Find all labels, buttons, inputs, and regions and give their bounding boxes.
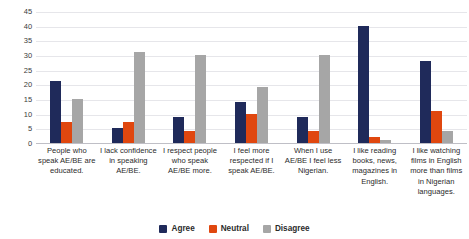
bar-group <box>405 12 467 143</box>
bar-group <box>282 12 344 143</box>
bar-group <box>221 12 283 143</box>
legend-swatch-icon <box>159 225 167 233</box>
bar-agree[interactable] <box>173 117 184 143</box>
y-axis-tick-10: 10 <box>24 111 32 119</box>
category-label: When I use AE/BE I feel less Nigerian. <box>282 146 344 197</box>
bar-disagree[interactable] <box>380 140 391 143</box>
legend-swatch-icon <box>263 225 271 233</box>
bar-neutral[interactable] <box>369 137 380 143</box>
bar-neutral[interactable] <box>184 131 195 143</box>
category-label: I like watching films in English more th… <box>405 146 467 197</box>
bar-agree[interactable] <box>235 102 246 143</box>
plot-area: 051015202530354045 <box>0 12 469 144</box>
bar-group <box>98 12 160 143</box>
legend-item-neutral[interactable]: Neutral <box>209 225 249 233</box>
y-axis-tick-30: 30 <box>24 52 32 60</box>
chart-legend: AgreeNeutralDisagree <box>0 225 469 233</box>
category-label: People who speak AE/BE are educated. <box>36 146 98 197</box>
bar-disagree[interactable] <box>72 99 83 143</box>
legend-item-agree[interactable]: Agree <box>159 225 194 233</box>
legend-swatch-icon <box>209 225 217 233</box>
bar-neutral[interactable] <box>308 131 319 143</box>
category-label: I respect people who speak AE/BE more. <box>159 146 221 197</box>
axis-baseline <box>36 143 467 144</box>
bar-agree[interactable] <box>297 117 308 143</box>
y-axis-tick-0: 0 <box>28 140 32 148</box>
bar-neutral[interactable] <box>431 111 442 143</box>
bar-neutral[interactable] <box>123 122 134 143</box>
y-axis-tick-15: 15 <box>24 96 32 104</box>
legend-label: Neutral <box>221 225 249 233</box>
y-axis-tick-40: 40 <box>24 23 32 31</box>
bar-chart: 051015202530354045 People who speak AE/B… <box>0 0 469 239</box>
bar-agree[interactable] <box>420 61 431 143</box>
bar-disagree[interactable] <box>442 131 453 143</box>
y-axis-tick-25: 25 <box>24 67 32 75</box>
category-label: I lack confidence in speaking AE/BE. <box>98 146 160 197</box>
y-axis-tick-35: 35 <box>24 38 32 46</box>
bar-agree[interactable] <box>112 128 123 143</box>
bar-agree[interactable] <box>358 26 369 143</box>
bar-neutral[interactable] <box>246 114 257 143</box>
bar-disagree[interactable] <box>195 55 206 143</box>
bar-neutral[interactable] <box>61 122 72 143</box>
bar-disagree[interactable] <box>257 87 268 143</box>
bar-group <box>159 12 221 143</box>
legend-label: Agree <box>171 225 194 233</box>
grid-area <box>36 12 467 144</box>
y-axis-tick-20: 20 <box>24 82 32 90</box>
category-label: I feel more respected if I speak AE/BE. <box>221 146 283 197</box>
legend-label: Disagree <box>275 225 310 233</box>
bar-disagree[interactable] <box>134 52 145 143</box>
bar-agree[interactable] <box>50 81 61 143</box>
category-labels: People who speak AE/BE are educated.I la… <box>36 146 467 197</box>
bar-groups <box>36 12 467 143</box>
y-axis: 051015202530354045 <box>0 12 36 144</box>
bar-disagree[interactable] <box>319 55 330 143</box>
bar-group <box>36 12 98 143</box>
y-axis-tick-5: 5 <box>28 126 32 134</box>
legend-item-disagree[interactable]: Disagree <box>263 225 310 233</box>
bar-group <box>344 12 406 143</box>
y-axis-tick-45: 45 <box>24 8 32 16</box>
category-label: I like reading books, news, magazines in… <box>344 146 406 197</box>
